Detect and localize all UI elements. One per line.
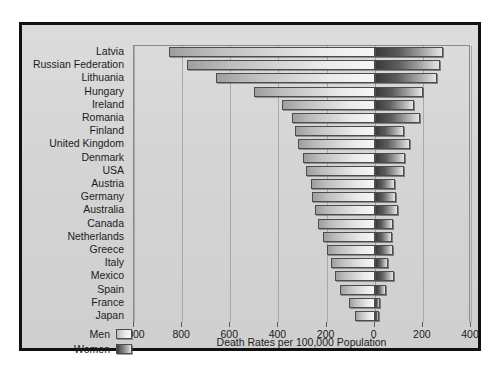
chart-figure: LatviaRussian FederationLithuaniaHungary… xyxy=(0,0,500,373)
bar-men xyxy=(315,205,375,215)
bar-women xyxy=(375,192,397,202)
axis-tick xyxy=(181,322,182,327)
category-label: Australia xyxy=(83,203,124,216)
legend-swatch-men-icon xyxy=(116,329,132,339)
figure-frame: LatviaRussian FederationLithuaniaHungary… xyxy=(19,22,481,351)
table-row xyxy=(134,99,469,112)
axis-tick xyxy=(229,322,230,327)
category-label: Mexico xyxy=(91,269,124,282)
table-row xyxy=(134,297,469,310)
bar-women xyxy=(375,139,410,149)
bar-women xyxy=(375,179,395,189)
table-row xyxy=(134,231,469,244)
bar-men xyxy=(298,139,375,149)
category-label: Germany xyxy=(81,190,124,203)
bar-women xyxy=(375,232,392,242)
bar-women xyxy=(375,285,386,295)
bar-men xyxy=(292,113,375,123)
bar-women xyxy=(375,245,393,255)
category-axis-labels: LatviaRussian FederationLithuaniaHungary… xyxy=(22,45,128,322)
bar-women xyxy=(375,60,440,70)
bar-men xyxy=(311,179,375,189)
table-row xyxy=(134,270,469,283)
bar-men xyxy=(355,311,374,321)
category-label: Finland xyxy=(90,124,124,137)
category-label: Netherlands xyxy=(67,230,124,243)
bar-men xyxy=(349,298,374,308)
legend: Men Women xyxy=(42,328,132,358)
legend-item-women: Women xyxy=(42,343,132,356)
bar-men xyxy=(327,245,375,255)
bar-women xyxy=(375,298,380,308)
bar-women xyxy=(375,258,388,268)
category-label: Spain xyxy=(97,283,124,296)
category-label: Ireland xyxy=(92,98,124,111)
axis-tick xyxy=(374,322,375,327)
bar-women xyxy=(375,113,421,123)
table-row xyxy=(134,244,469,257)
table-row xyxy=(134,72,469,85)
table-row xyxy=(134,152,469,165)
legend-swatch-women-icon xyxy=(116,344,132,354)
legend-item-men: Men xyxy=(42,328,132,341)
category-label: Hungary xyxy=(84,85,124,98)
gridline xyxy=(471,46,472,322)
bar-men xyxy=(318,219,375,229)
bar-men xyxy=(331,258,374,268)
bar-women xyxy=(375,47,443,57)
table-row xyxy=(134,178,469,191)
bar-men xyxy=(323,232,375,242)
bar-men xyxy=(295,126,374,136)
table-row xyxy=(134,310,469,323)
bar-men xyxy=(312,192,375,202)
bar-women xyxy=(375,153,405,163)
table-row xyxy=(134,138,469,151)
category-label: Latvia xyxy=(96,45,124,58)
category-label: Austria xyxy=(91,177,124,190)
category-label: Lithuania xyxy=(81,71,124,84)
bar-men xyxy=(303,153,375,163)
category-label: Romania xyxy=(82,111,124,124)
bar-women xyxy=(375,311,379,321)
table-row xyxy=(134,112,469,125)
table-row xyxy=(134,257,469,270)
legend-label-women: Women xyxy=(74,343,110,356)
bar-women xyxy=(375,100,415,110)
bar-women xyxy=(375,126,404,136)
bar-women xyxy=(375,87,423,97)
bar-men xyxy=(254,87,374,97)
legend-label-men: Men xyxy=(90,328,110,341)
bar-men xyxy=(169,47,375,57)
bar-men xyxy=(335,271,375,281)
bar-women xyxy=(375,205,398,215)
bar-men xyxy=(306,166,375,176)
bar-men xyxy=(340,285,375,295)
table-row xyxy=(134,86,469,99)
category-label: Japan xyxy=(95,309,124,322)
bar-men xyxy=(216,73,375,83)
axis-tick xyxy=(277,322,278,327)
table-row xyxy=(134,59,469,72)
category-label: Greece xyxy=(90,243,124,256)
table-row xyxy=(134,284,469,297)
table-row xyxy=(134,204,469,217)
bar-women xyxy=(375,219,393,229)
bar-women xyxy=(375,271,394,281)
category-label: Canada xyxy=(87,217,124,230)
category-label: Italy xyxy=(105,256,124,269)
table-row xyxy=(134,191,469,204)
axis-tick xyxy=(422,322,423,327)
x-axis-title: Death Rates per 100,000 Population xyxy=(133,336,470,348)
category-label: Russian Federation xyxy=(33,58,124,71)
bar-rows xyxy=(134,46,469,322)
category-label: USA xyxy=(102,164,124,177)
category-label: France xyxy=(91,296,124,309)
bar-men xyxy=(282,100,375,110)
plot-area xyxy=(133,45,470,322)
bar-women xyxy=(375,73,437,83)
category-label: United Kingdom xyxy=(49,137,124,150)
category-label: Denmark xyxy=(81,151,124,164)
bar-women xyxy=(375,166,404,176)
axis-tick xyxy=(133,322,134,327)
bar-men xyxy=(187,60,375,70)
